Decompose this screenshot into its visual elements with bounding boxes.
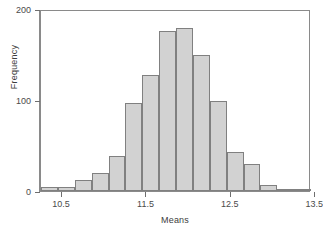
x-axis-tick <box>61 192 62 197</box>
histogram-bar <box>294 189 311 191</box>
y-axis-tick-label: 100 <box>16 96 31 106</box>
plot-area <box>40 10 310 192</box>
histogram-bar <box>41 187 58 191</box>
x-axis-tick-label: 10.5 <box>52 199 70 209</box>
x-axis-tick-label: 13.5 <box>305 199 323 209</box>
histogram-bar <box>193 55 210 192</box>
x-axis-tick <box>314 192 315 197</box>
x-axis-tick <box>230 192 231 197</box>
x-axis-tick-label: 11.5 <box>137 199 154 209</box>
x-axis-title: Means <box>40 215 310 225</box>
x-axis-tick-label: 12.5 <box>221 199 239 209</box>
y-axis-title: Frequency <box>9 27 19 107</box>
y-axis-tick-label: 0 <box>26 187 31 197</box>
histogram-bar <box>277 189 294 191</box>
histogram-bar <box>109 156 126 191</box>
histogram-bar <box>244 164 261 191</box>
histogram-bar <box>75 180 92 191</box>
y-axis: 0100200 <box>33 10 40 192</box>
histogram-bar <box>92 173 109 191</box>
bar-series <box>41 11 309 191</box>
histogram-bar <box>159 31 176 191</box>
x-axis: 10.511.512.513.5 <box>40 192 310 200</box>
histogram-figure: Frequency 0100200 10.511.512.513.5 Means <box>0 0 323 240</box>
histogram-bar <box>125 103 142 191</box>
y-axis-tick-label: 200 <box>16 5 31 15</box>
histogram-bar <box>176 28 193 191</box>
histogram-bar <box>227 152 244 191</box>
histogram-bar <box>210 101 227 191</box>
histogram-bar <box>58 187 75 191</box>
x-axis-tick <box>145 192 146 197</box>
histogram-bar <box>142 75 159 191</box>
histogram-bar <box>260 185 277 191</box>
